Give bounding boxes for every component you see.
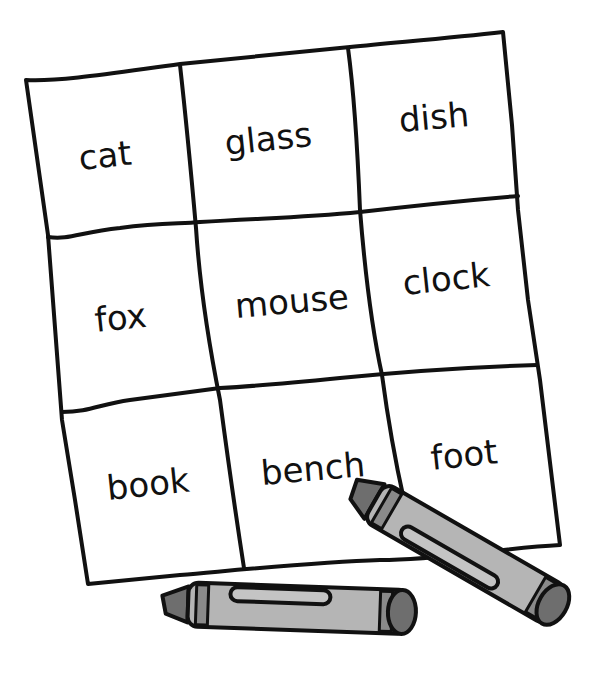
col-divider-2 (348, 48, 404, 500)
word-glass: glass (223, 114, 314, 163)
word-book: book (105, 459, 192, 507)
word-foot: foot (429, 431, 500, 478)
word-cat: cat (77, 133, 134, 178)
row-divider-1 (48, 196, 518, 238)
word-mouse: mouse (233, 276, 350, 326)
word-grid-illustration: cat glass dish fox mouse clock book benc… (0, 0, 602, 677)
word-fox: fox (93, 295, 149, 340)
word-dish: dish (397, 94, 471, 140)
crayon-bottom-icon (161, 582, 416, 635)
word-bench: bench (259, 444, 366, 493)
row-divider-2 (62, 365, 537, 412)
word-clock: clock (401, 254, 492, 303)
